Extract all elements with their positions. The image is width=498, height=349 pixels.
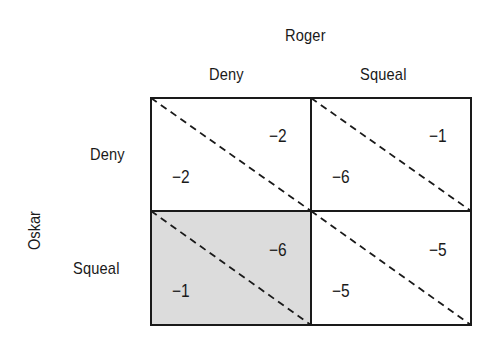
column-strategy-squeal: Squeal — [360, 66, 407, 83]
payoff-oskar-squeal-deny: −1 — [172, 282, 190, 300]
payoff-roger-deny-squeal: −1 — [429, 127, 447, 145]
row-strategy-squeal: Squeal — [73, 260, 120, 277]
column-player-label: Roger — [285, 27, 326, 44]
payoff-roger-squeal-squeal: −5 — [429, 241, 447, 259]
row-player-label: Oskar — [26, 211, 43, 250]
column-strategy-deny: Deny — [209, 66, 244, 83]
payoff-oskar-deny-deny: −2 — [172, 168, 190, 186]
row-strategy-deny: Deny — [90, 146, 125, 163]
payoff-roger-deny-deny: −2 — [269, 127, 287, 145]
payoff-matrix-grid — [0, 0, 498, 349]
diagonal-deny-deny — [151, 98, 311, 211]
payoff-oskar-deny-squeal: −6 — [332, 168, 350, 186]
payoff-oskar-squeal-squeal: −5 — [332, 282, 350, 300]
diagonal-deny-squeal — [311, 98, 471, 211]
payoff-roger-squeal-deny: −6 — [269, 241, 287, 259]
diagonal-squeal-squeal — [311, 211, 471, 325]
